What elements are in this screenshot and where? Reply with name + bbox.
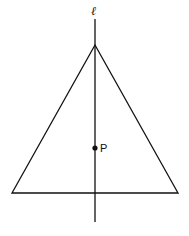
geometry-diagram: ℓ P [0,0,189,236]
line-label: ℓ [91,4,96,18]
point-label: P [100,142,107,154]
point-p [92,145,97,150]
